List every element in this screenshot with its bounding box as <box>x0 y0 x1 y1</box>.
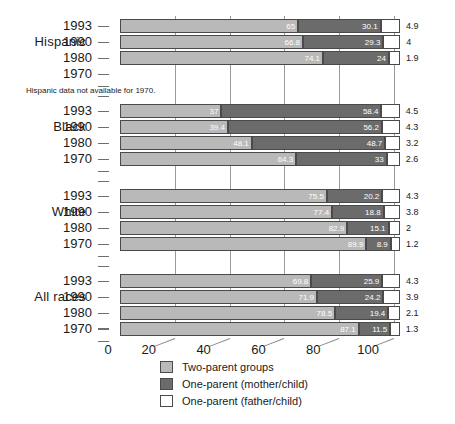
year-label: 1990 <box>48 119 92 135</box>
father-share-value: 4 <box>406 34 411 50</box>
year-tick <box>98 58 109 59</box>
stacked-bar: 77.418.8 <box>120 205 416 219</box>
chart-container: Hispanic19936530.14.9199066.829.34198074… <box>0 0 455 424</box>
bar-value-label: 75.5 <box>308 190 324 203</box>
x-tick-label: 40 <box>196 342 210 357</box>
x-axis: 020406080100 <box>0 330 455 360</box>
father-share-value: 4.3 <box>406 273 419 289</box>
bar-segment-two-parent: 82.9 <box>120 221 347 235</box>
chart-row: 198074.1241.9 <box>0 50 455 66</box>
bar-segment-one-parent-father <box>384 205 400 219</box>
bar-segment-one-parent-father <box>382 274 400 288</box>
father-share-value: 3.9 <box>406 289 419 305</box>
bar-segment-one-parent-mother: 33 <box>296 152 386 166</box>
bar-segment-one-parent-mother: 24 <box>323 51 389 65</box>
chart-row: 198082.915.12 <box>0 220 455 236</box>
bar-value-label: 25.9 <box>364 275 380 288</box>
x-tick-leader <box>264 338 285 347</box>
bar-segment-one-parent-mother: 19.4 <box>335 306 388 320</box>
bar-segment-one-parent-father <box>389 221 400 235</box>
father-share-value: 1.2 <box>406 236 419 252</box>
bar-value-label: 56.2 <box>363 121 379 134</box>
bar-value-label: 24 <box>377 52 386 65</box>
bar-value-label: 19.4 <box>370 307 386 320</box>
bar-segment-one-parent-mother: 30.1 <box>298 19 380 33</box>
year-label: 1993 <box>48 103 92 119</box>
bar-segment-two-parent: 74.1 <box>120 51 323 65</box>
year-label: 1970 <box>48 151 92 167</box>
father-share-value: 3.8 <box>406 204 419 220</box>
bar-value-label: 58.4 <box>363 105 379 118</box>
axis-spacer-tick <box>98 171 109 172</box>
chart-row: 19936530.14.9 <box>0 18 455 34</box>
bar-segment-one-parent-father <box>391 237 400 251</box>
bar-segment-two-parent: 65 <box>120 19 298 33</box>
bar-value-label: 74.1 <box>305 52 321 65</box>
chart-row: 197064.3332.6 <box>0 151 455 167</box>
x-tick-label: 60 <box>251 342 265 357</box>
bar-segment-one-parent-mother: 18.8 <box>332 205 384 219</box>
bar-segment-one-parent-father <box>389 51 400 65</box>
chart-row: 199039.456.24.3 <box>0 119 455 135</box>
stacked-bar: 6530.1 <box>120 19 416 33</box>
father-share-value: 1.9 <box>406 50 419 66</box>
x-tick-leader <box>319 338 340 347</box>
bar-value-label: 18.8 <box>365 206 381 219</box>
stacked-bar: 74.124 <box>120 51 416 65</box>
father-share-value: 4.3 <box>406 188 419 204</box>
hispanic-availability-note: Hispanic data not available for 1970. <box>26 86 155 95</box>
stacked-bar: 82.915.1 <box>120 221 416 235</box>
chart-row: 19933758.44.5 <box>0 103 455 119</box>
year-tick <box>98 143 109 144</box>
chart-row: 198048.148.73.2 <box>0 135 455 151</box>
group-black: Black19933758.44.5199039.456.24.3198048.… <box>0 103 455 181</box>
legend-swatch-one-parent-father <box>160 395 173 407</box>
chart-row: 199369.825.94.3 <box>0 273 455 289</box>
legend-item-one-parent-father: One-parent (father/child) <box>160 392 400 409</box>
bar-value-label: 15.1 <box>370 222 386 235</box>
x-tick-label: 80 <box>306 342 320 357</box>
axis-spacer-tick <box>98 328 109 329</box>
father-share-value: 3.2 <box>406 135 419 151</box>
bar-segment-two-parent: 48.1 <box>120 136 252 150</box>
year-tick <box>98 281 109 282</box>
year-label: 1993 <box>48 188 92 204</box>
year-label: 1980 <box>48 135 92 151</box>
axis-spacer-tick <box>98 181 109 182</box>
bar-segment-one-parent-mother: 29.3 <box>303 35 383 49</box>
bar-value-label: 48.7 <box>367 137 383 150</box>
bar-value-label: 24.2 <box>365 291 381 304</box>
bar-value-label: 29.3 <box>365 36 381 49</box>
bar-segment-one-parent-father <box>382 189 400 203</box>
bar-segment-one-parent-father <box>385 136 400 150</box>
year-tick <box>98 196 109 197</box>
bar-segment-one-parent-mother: 20.2 <box>327 189 382 203</box>
axis-spacer-tick <box>98 256 109 257</box>
bar-segment-one-parent-mother: 8.9 <box>366 237 390 251</box>
stacked-bar: 48.148.7 <box>120 136 416 150</box>
year-tick <box>98 159 109 160</box>
bar-value-label: 66.8 <box>285 36 301 49</box>
x-tick-label: 20 <box>142 342 156 357</box>
father-share-value: 4.3 <box>406 119 419 135</box>
x-tick-label: 100 <box>357 342 379 357</box>
bar-value-label: 64.3 <box>278 153 294 166</box>
stacked-bar: 64.333 <box>120 152 416 166</box>
chart-row: 199066.829.34 <box>0 34 455 50</box>
year-label: 1993 <box>48 273 92 289</box>
year-tick <box>98 26 109 27</box>
chart-row: 199077.418.83.8 <box>0 204 455 220</box>
bar-segment-one-parent-mother: 58.4 <box>221 104 381 118</box>
bar-segment-two-parent: 89.9 <box>120 237 366 251</box>
bar-segment-two-parent: 78.5 <box>120 306 335 320</box>
bar-segment-two-parent: 75.5 <box>120 189 327 203</box>
bar-segment-one-parent-mother: 56.2 <box>228 120 382 134</box>
bar-segment-one-parent-father <box>387 152 400 166</box>
stacked-bar: 39.456.2 <box>120 120 416 134</box>
chart-row: 197089.98.91.2 <box>0 236 455 252</box>
year-tick <box>98 228 109 229</box>
bar-segment-one-parent-mother: 48.7 <box>252 136 385 150</box>
father-share-value: 2.1 <box>406 305 419 321</box>
bar-segment-one-parent-father <box>383 35 400 49</box>
stacked-bar: 75.520.2 <box>120 189 416 203</box>
